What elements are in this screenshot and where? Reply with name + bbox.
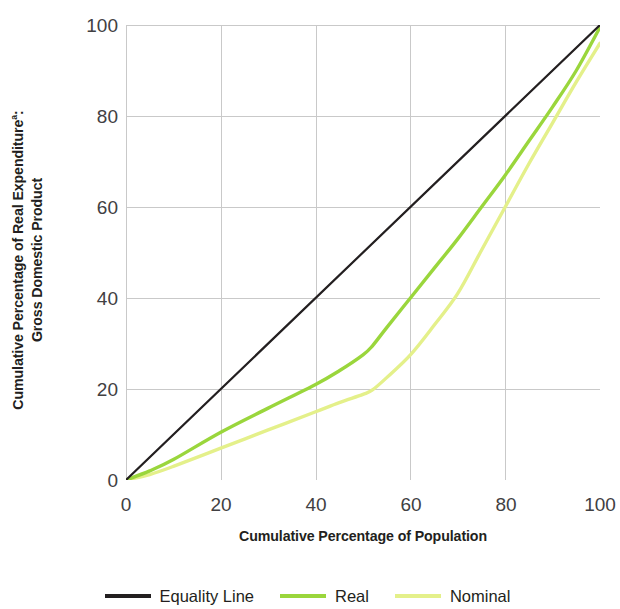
plot-area [126, 25, 600, 480]
legend-swatch-nominal [395, 594, 441, 598]
x-tick-0: 0 [96, 495, 156, 514]
y-axis-title: Cumulative Percentage of Real Expenditur… [0, 20, 56, 500]
series-line-equality-line [126, 25, 600, 480]
legend-item-real[interactable]: Real [280, 588, 369, 605]
legend-item-nominal[interactable]: Nominal [395, 588, 511, 605]
x-tick-20: 20 [191, 495, 251, 514]
legend-swatch-real [280, 594, 326, 598]
x-tick-60: 60 [381, 495, 441, 514]
y-axis-title-line1: Cumulative Percentage of Real Expenditur… [10, 120, 26, 410]
series-line-nominal [126, 43, 600, 480]
legend-item-equality-line[interactable]: Equality Line [105, 588, 254, 605]
plot-svg [126, 25, 600, 480]
x-tick-100: 100 [570, 495, 620, 514]
x-axis-tick-labels: 0 20 40 60 80 100 [0, 495, 615, 521]
y-tick-40: 40 [74, 289, 118, 308]
y-tick-100: 100 [74, 16, 118, 35]
legend-label-nominal: Nominal [450, 588, 511, 605]
y-tick-80: 80 [74, 107, 118, 126]
y-axis-title-superscript: a [9, 115, 19, 120]
legend-label-equality-line: Equality Line [160, 588, 254, 605]
x-tick-80: 80 [476, 495, 536, 514]
y-tick-0: 0 [74, 471, 118, 490]
data-series-layer [126, 25, 600, 480]
chart-legend: Equality Line Real Nominal [0, 583, 615, 609]
y-axis-title-colon: : [10, 110, 26, 115]
y-tick-20: 20 [74, 380, 118, 399]
legend-label-real: Real [335, 588, 369, 605]
x-axis-title: Cumulative Percentage of Population [126, 528, 600, 544]
x-tick-40: 40 [286, 495, 346, 514]
y-tick-60: 60 [74, 198, 118, 217]
y-axis-title-line2: Gross Domestic Product [29, 178, 45, 342]
legend-swatch-equality-line [105, 594, 151, 598]
